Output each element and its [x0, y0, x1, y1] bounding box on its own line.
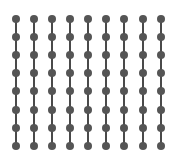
grid-dot	[66, 106, 74, 114]
grid-dot	[48, 33, 56, 41]
grid-dot	[30, 33, 38, 41]
grid-dot	[157, 33, 165, 41]
grid-dot	[48, 15, 56, 23]
grid-dot	[48, 87, 56, 95]
grid-dot	[12, 124, 20, 132]
grid-dot	[120, 33, 128, 41]
grid-dot	[84, 15, 92, 23]
grid-dot	[120, 69, 128, 77]
grid-dot	[157, 15, 165, 23]
dot-grid-diagram	[0, 0, 180, 159]
grid-dot	[102, 87, 110, 95]
grid-dot	[102, 33, 110, 41]
grid-dot	[84, 69, 92, 77]
grid-column-8	[139, 15, 147, 150]
grid-dot	[120, 142, 128, 150]
grid-dot	[102, 142, 110, 150]
grid-column-3	[48, 15, 56, 150]
grid-dot	[66, 33, 74, 41]
grid-dot	[139, 87, 147, 95]
grid-dot	[157, 69, 165, 77]
grid-dot	[48, 51, 56, 59]
grid-dot	[48, 124, 56, 132]
grid-dot	[30, 69, 38, 77]
grid-dot	[48, 142, 56, 150]
grid-dot	[30, 87, 38, 95]
grid-dot	[30, 15, 38, 23]
grid-dot	[30, 51, 38, 59]
grid-dot	[84, 33, 92, 41]
grid-dot	[30, 106, 38, 114]
grid-dot	[84, 87, 92, 95]
grid-dot	[12, 106, 20, 114]
dot-grid-svg	[0, 0, 180, 159]
grid-column-2	[30, 15, 38, 150]
grid-dot	[12, 87, 20, 95]
grid-dot	[120, 124, 128, 132]
grid-dot	[120, 87, 128, 95]
grid-dot	[102, 124, 110, 132]
grid-dot	[102, 15, 110, 23]
grid-dot	[66, 142, 74, 150]
grid-dot	[12, 33, 20, 41]
grid-dot	[30, 142, 38, 150]
grid-column-4	[66, 15, 74, 150]
grid-dot	[120, 51, 128, 59]
grid-column-6	[102, 15, 110, 150]
grid-dot	[157, 87, 165, 95]
grid-dot	[84, 106, 92, 114]
grid-dot	[139, 15, 147, 23]
grid-dot	[120, 15, 128, 23]
grid-dot	[48, 69, 56, 77]
grid-dot	[84, 51, 92, 59]
grid-dot	[102, 106, 110, 114]
grid-dot	[12, 15, 20, 23]
grid-dot	[102, 69, 110, 77]
grid-dot	[12, 69, 20, 77]
grid-dot	[139, 33, 147, 41]
grid-dot	[66, 87, 74, 95]
grid-dot	[157, 124, 165, 132]
grid-dot	[12, 142, 20, 150]
grid-dot	[139, 69, 147, 77]
grid-dot	[48, 106, 56, 114]
grid-dot	[102, 51, 110, 59]
grid-dot	[139, 142, 147, 150]
grid-column-1	[12, 15, 20, 150]
grid-dot	[84, 142, 92, 150]
grid-dot	[84, 124, 92, 132]
grid-dot	[157, 106, 165, 114]
grid-dot	[120, 106, 128, 114]
grid-dot	[157, 51, 165, 59]
grid-column-5	[84, 15, 92, 150]
grid-dot	[139, 106, 147, 114]
grid-dot	[66, 51, 74, 59]
grid-dot	[66, 69, 74, 77]
grid-dot	[157, 142, 165, 150]
grid-dot	[66, 15, 74, 23]
grid-column-9	[157, 15, 165, 150]
grid-dot	[12, 51, 20, 59]
grid-dot	[139, 124, 147, 132]
grid-dot	[30, 124, 38, 132]
grid-column-7	[120, 15, 128, 150]
grid-dot	[139, 51, 147, 59]
grid-dot	[66, 124, 74, 132]
